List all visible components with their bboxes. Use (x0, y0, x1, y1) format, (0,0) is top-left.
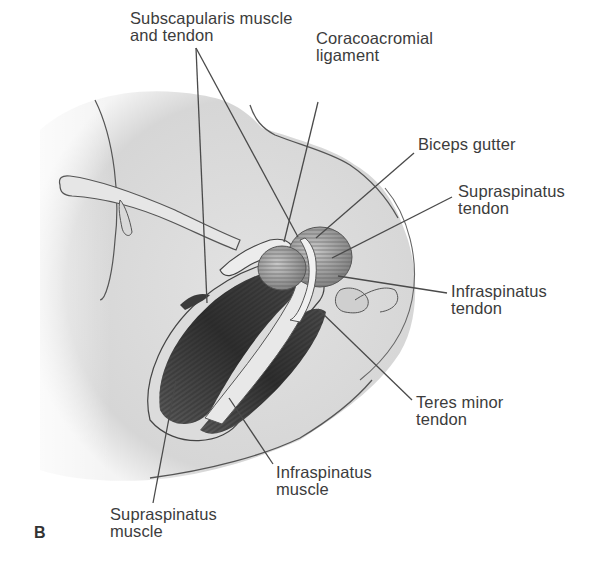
label-line: Subscapularis muscle (130, 10, 293, 27)
panel-letter: B (34, 524, 46, 542)
label-biceps-gutter: Biceps gutter (418, 136, 516, 153)
label-teres-minor-tendon: Teres minor tendon (416, 394, 503, 428)
label-supraspinatus-tendon: Supraspinatus tendon (458, 183, 565, 217)
label-line: Teres minor (416, 394, 503, 411)
label-line: Supraspinatus (458, 183, 565, 200)
label-line: muscle (276, 481, 372, 498)
anatomy-figure: Subscapularis muscle and tendon Coracoac… (0, 0, 614, 567)
label-line: tendon (451, 300, 547, 317)
label-line: ligament (316, 47, 433, 64)
label-line: and tendon (130, 27, 293, 44)
label-infraspinatus-muscle: Infraspinatus muscle (276, 464, 372, 498)
label-line: tendon (416, 411, 503, 428)
label-line: Coracoacromial (316, 30, 433, 47)
label-line: Supraspinatus (110, 506, 217, 523)
label-coracoacromial: Coracoacromial ligament (316, 30, 433, 64)
label-infraspinatus-tendon: Infraspinatus tendon (451, 283, 547, 317)
label-line: Infraspinatus (451, 283, 547, 300)
label-line: Biceps gutter (418, 136, 516, 153)
label-subscapularis: Subscapularis muscle and tendon (130, 10, 293, 44)
label-supraspinatus-muscle: Supraspinatus muscle (110, 506, 217, 540)
label-line: tendon (458, 200, 565, 217)
label-line: Infraspinatus (276, 464, 372, 481)
label-line: muscle (110, 523, 217, 540)
